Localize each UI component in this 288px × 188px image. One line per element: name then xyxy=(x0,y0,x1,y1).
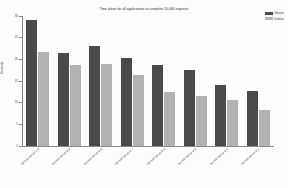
bar-series-a[interactable] xyxy=(215,85,226,146)
bar-chart: Time taken for all applications to compl… xyxy=(0,0,288,188)
legend-label-series-a: Ubuntu xyxy=(274,11,284,15)
legend-item-series-a[interactable]: Ubuntu xyxy=(265,11,284,15)
chart-title: Time taken for all applications to compl… xyxy=(0,7,288,12)
x-tick-label: net-http-server 0.5 xyxy=(178,148,198,166)
bar-series-a[interactable] xyxy=(58,53,69,146)
x-label-cell: net-http-server 0.8 xyxy=(85,147,117,187)
bar-series-a[interactable] xyxy=(26,20,37,146)
bar-series-a[interactable] xyxy=(152,65,163,146)
legend-swatch-series-a xyxy=(265,12,273,15)
y-tick-label: 0 xyxy=(2,144,18,149)
bar-group xyxy=(85,16,117,146)
y-tick-label: 10 xyxy=(2,100,18,105)
x-label-cell: net-http-server 0.4 xyxy=(211,147,243,187)
x-label-cell: net-http-server 0.6 xyxy=(148,147,180,187)
x-tick-label: net-http-server 1.0 xyxy=(20,148,40,166)
bar-series-b[interactable] xyxy=(227,100,238,146)
bar-series-a[interactable] xyxy=(121,58,132,146)
bar-group xyxy=(148,16,180,146)
y-tick-label: 20 xyxy=(2,57,18,62)
y-axis-title: Seconds xyxy=(0,56,4,80)
y-tick-label: 30 xyxy=(2,14,18,19)
bar-series-b[interactable] xyxy=(70,65,81,146)
x-tick-label: net-http-server 0.3 xyxy=(241,148,261,166)
bar-group xyxy=(180,16,212,146)
bar-series-b[interactable] xyxy=(38,52,49,146)
x-tick-label: net-http-server 0.7 xyxy=(115,148,135,166)
bar-series-b[interactable] xyxy=(101,64,112,146)
bar-groups xyxy=(22,16,274,146)
bar-group xyxy=(22,16,54,146)
bar-series-a[interactable] xyxy=(89,46,100,146)
bar-series-b[interactable] xyxy=(133,75,144,147)
x-label-cell: net-http-server 0.7 xyxy=(117,147,149,187)
legend-label-series-b: Debian xyxy=(274,17,284,21)
bar-group xyxy=(243,16,275,146)
bar-group xyxy=(211,16,243,146)
x-tick-label: net-http-server 0.4 xyxy=(209,148,229,166)
x-tick-label: net-http-server 0.9 xyxy=(52,148,72,166)
y-tick-label: 15 xyxy=(2,79,18,84)
x-label-cell: net-http-server 1.0 xyxy=(22,147,54,187)
bar-series-b[interactable] xyxy=(259,110,270,146)
x-tick-label: net-http-server 0.8 xyxy=(83,148,103,166)
bar-series-b[interactable] xyxy=(164,92,175,146)
bar-group xyxy=(117,16,149,146)
bar-series-a[interactable] xyxy=(184,70,195,146)
x-label-cell: net-http-server 0.5 xyxy=(180,147,212,187)
x-axis-labels: net-http-server 1.0net-http-server 0.9ne… xyxy=(22,147,274,187)
x-tick-label: net-http-server 0.6 xyxy=(146,148,166,166)
x-label-cell: net-http-server 0.3 xyxy=(243,147,275,187)
y-tick-label: 25 xyxy=(2,35,18,40)
x-label-cell: net-http-server 0.9 xyxy=(54,147,86,187)
bar-series-a[interactable] xyxy=(247,91,258,146)
bar-series-b[interactable] xyxy=(196,96,207,146)
bar-group xyxy=(54,16,86,146)
y-tick-label: 5 xyxy=(2,122,18,127)
